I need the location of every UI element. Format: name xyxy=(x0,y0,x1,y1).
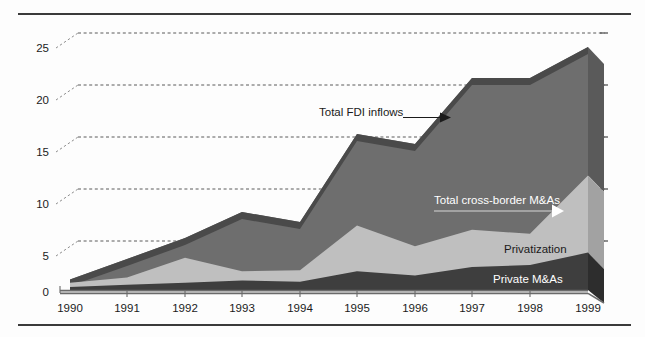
annotation-private-mas: Private M&As xyxy=(493,273,563,285)
x-axis-labels: 1990 1991 1992 1993 1994 1995 1996 1997 … xyxy=(57,302,601,314)
area-chart: 25 20 15 10 5 0 xyxy=(0,0,645,337)
annotation-label: Total cross-border M&As xyxy=(434,194,560,206)
x-tick-label: 1991 xyxy=(114,302,140,314)
y-tick-label: 5 xyxy=(43,250,49,262)
annotation-privatization: Privatization xyxy=(504,243,567,255)
x-tick-label: 1997 xyxy=(459,302,485,314)
annotation-total-fdi-inflows: Total FDI inflows xyxy=(319,106,451,123)
x-tick-label: 1999 xyxy=(575,302,601,314)
x-tick-label: 1992 xyxy=(172,302,198,314)
annotation-label: Total FDI inflows xyxy=(319,106,404,118)
x-tick-label: 1995 xyxy=(344,302,370,314)
y-axis-labels: 25 20 15 10 5 0 xyxy=(36,42,49,298)
chart-3d-side-face xyxy=(588,47,604,303)
x-tick-label: 1990 xyxy=(57,302,83,314)
y-tick-label: 10 xyxy=(36,198,49,210)
y-tick-label: 0 xyxy=(43,286,49,298)
y-tick-label: 15 xyxy=(36,146,49,158)
x-tick-label: 1996 xyxy=(402,302,428,314)
figure-panel: 25 20 15 10 5 0 xyxy=(0,0,645,337)
annotation-label: Privatization xyxy=(504,243,567,255)
y-tick-label: 20 xyxy=(36,94,49,106)
y-tick-label: 25 xyxy=(36,42,49,54)
x-tick-label: 1994 xyxy=(287,302,313,314)
annotation-label: Private M&As xyxy=(493,273,563,285)
x-tick-label: 1993 xyxy=(229,302,255,314)
x-tick-label: 1998 xyxy=(517,302,543,314)
